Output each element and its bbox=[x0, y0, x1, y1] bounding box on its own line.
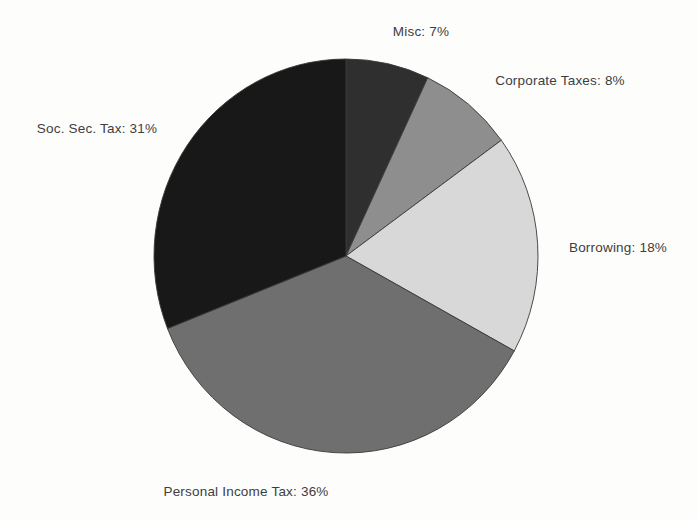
pie-label-soc-sec-tax: Soc. Sec. Tax: 31% bbox=[37, 121, 157, 136]
pie-label-borrowing: Borrowing: 18% bbox=[569, 240, 667, 255]
pie-chart-figure: Misc: 7%Corporate Taxes: 8%Borrowing: 18… bbox=[0, 0, 697, 520]
pie-label-personal-income-tax: Personal Income Tax: 36% bbox=[163, 484, 328, 499]
pie-label-corporate-taxes: Corporate Taxes: 8% bbox=[495, 73, 625, 88]
pie-label-misc: Misc: 7% bbox=[393, 24, 449, 39]
